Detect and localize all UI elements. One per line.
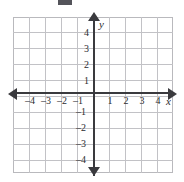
x-axis-label: x [166, 96, 171, 107]
y-axis-line [93, 16, 95, 176]
y-tick-label: –4 [70, 155, 86, 165]
y-axis-label: y [99, 19, 104, 30]
coordinate-plane-figure: –4 –3 –2 –1 1 2 3 4 4 3 2 1 –1 –2 –3 –4 … [0, 0, 184, 182]
cropped-artifact [58, 0, 72, 5]
y-tick-label: 1 [73, 76, 89, 86]
x-tick-label: 1 [102, 96, 118, 106]
x-tick-label: –3 [38, 96, 54, 106]
x-axis-line [12, 92, 174, 94]
x-tick-label: 2 [118, 96, 134, 106]
y-axis-down-arrow-icon [88, 167, 100, 176]
x-tick-label: 3 [134, 96, 150, 106]
x-tick-label: –2 [54, 96, 70, 106]
y-tick-label: –3 [70, 139, 86, 149]
y-tick-label: –2 [70, 123, 86, 133]
x-tick-label: 4 [150, 96, 166, 106]
y-tick-label: 3 [73, 44, 89, 54]
x-tick-label: –4 [22, 96, 38, 106]
x-axis-left-arrow-icon [8, 88, 17, 100]
x-tick-label: –1 [70, 96, 86, 106]
y-tick-label: –1 [70, 107, 86, 117]
y-tick-label: 2 [73, 60, 89, 70]
y-tick-label: 4 [73, 28, 89, 38]
